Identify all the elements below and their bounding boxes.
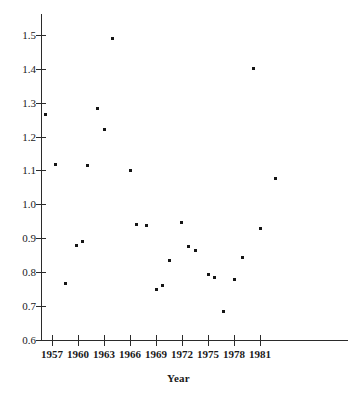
data-point	[252, 67, 255, 70]
data-point	[155, 288, 158, 291]
data-point	[180, 221, 183, 224]
plot-area	[0, 0, 357, 406]
data-point	[213, 276, 216, 279]
data-point	[222, 310, 225, 313]
data-point	[96, 107, 99, 110]
data-point	[259, 227, 262, 230]
data-point	[86, 164, 89, 167]
data-point	[103, 128, 106, 131]
data-point	[233, 278, 236, 281]
data-point	[135, 223, 138, 226]
data-point	[54, 163, 57, 166]
data-point	[274, 177, 277, 180]
data-point	[44, 113, 47, 116]
data-point	[145, 224, 148, 227]
data-point	[81, 240, 84, 243]
data-point	[75, 244, 78, 247]
data-point	[194, 249, 197, 252]
data-point	[111, 37, 114, 40]
data-point	[241, 256, 244, 259]
data-point	[64, 282, 67, 285]
data-point	[187, 245, 190, 248]
scatter-plot-figure: 0.60.70.80.91.01.11.21.31.41.5 195719601…	[0, 0, 357, 406]
data-point	[168, 259, 171, 262]
data-point	[207, 273, 210, 276]
data-point	[129, 169, 132, 172]
data-point	[161, 284, 164, 287]
